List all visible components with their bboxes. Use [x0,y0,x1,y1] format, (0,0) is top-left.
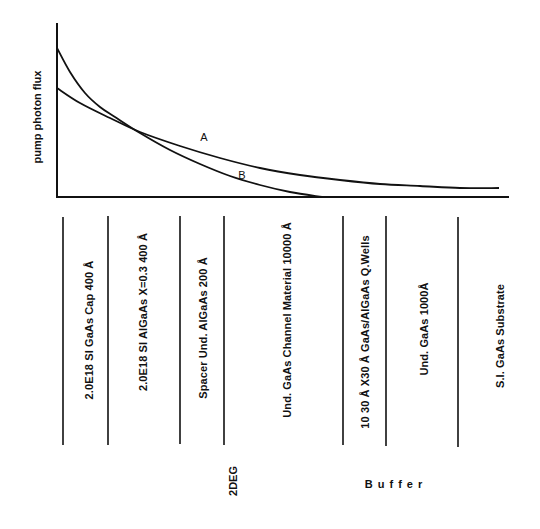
layer-label-substrate: S.I. GaAs Substrate [494,284,506,388]
layer-label-cap: 2.0E18 SI GaAs Cap 400 Å [83,261,95,400]
layer-label-algaas-doped: 2.0E18 SI AlGaAs X=0.3 400 Å [137,233,149,391]
curve-a-label: A [200,131,207,143]
y-axis-label: pump photon flux [31,71,43,164]
curve-b-label: B [238,169,245,181]
layer-label-quantum-wells: 10 30 Å X30 Å GaAs/AlGaAs Q.Wells [359,235,371,428]
layer-label-channel: Und. GaAs Channel Material 10000 Å [281,222,293,417]
group-label-buffer: Buffer [365,478,427,490]
layer-dividers [63,216,458,447]
layer-label-spacer: Spacer Und. AlGaAs 200 Å [197,257,209,398]
curve-a [57,88,499,188]
plot-canvas [0,0,540,529]
layer-structure-figure: pump photon flux A B 2.0E18 SI GaAs Cap … [0,0,540,529]
curve-b [57,48,322,197]
layer-label-und-gaas-buffer: Und. GaAs 1000Å [418,282,430,375]
group-label-2deg: 2DEG [227,466,239,496]
